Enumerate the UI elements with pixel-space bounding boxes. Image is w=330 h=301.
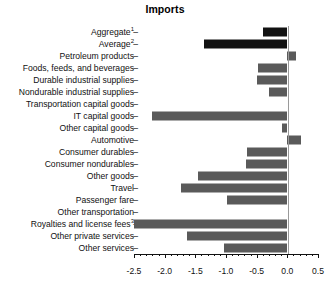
bar-row: Other capital goods– <box>0 122 330 134</box>
category-tick-dash: – <box>133 99 138 109</box>
x-axis-minor-tick <box>281 254 282 256</box>
bar-row: Consumer durables– <box>0 146 330 158</box>
category-tick-dash: – <box>133 27 138 37</box>
x-axis-major-tick <box>134 254 135 258</box>
x-axis-minor-tick <box>177 254 178 256</box>
x-axis-minor-tick <box>251 254 252 256</box>
category-tick-dash: – <box>133 51 138 61</box>
x-axis-minor-tick <box>208 254 209 256</box>
x-axis-tick-label: -2.0 <box>157 266 172 276</box>
category-tick-dash: – <box>133 183 138 193</box>
bar <box>152 112 287 121</box>
bar <box>134 220 287 229</box>
x-axis-minor-tick <box>189 254 190 256</box>
bar-row: Consumer nondurables– <box>0 158 330 170</box>
category-label: Aggregate1 <box>91 28 134 37</box>
x-axis-tick-label: -2.5 <box>127 266 142 276</box>
bar-row: Royalties and license fees3– <box>0 218 330 230</box>
bar <box>247 148 287 157</box>
category-label: Transportation capital goods <box>26 100 134 109</box>
bar <box>198 172 288 181</box>
x-axis-major-tick <box>318 254 319 258</box>
zero-axis-line <box>288 26 289 254</box>
x-axis-minor-tick <box>146 254 147 256</box>
category-tick-dash: – <box>133 171 138 181</box>
bar-row: Other goods– <box>0 170 330 182</box>
category-tick-dash: – <box>133 231 138 241</box>
x-axis <box>0 254 330 264</box>
category-tick-dash: – <box>133 75 138 85</box>
category-tick-dash: – <box>133 159 138 169</box>
category-label: Passenger fare <box>76 196 134 205</box>
bar <box>263 28 288 37</box>
x-axis-minor-tick <box>201 254 202 256</box>
bar <box>246 160 287 169</box>
category-tick-dash: – <box>133 87 138 97</box>
plot-area: Aggregate1–Average2–Petroleum products–F… <box>0 26 330 264</box>
x-axis-major-tick <box>195 254 196 258</box>
category-label: Royalties and license fees3 <box>31 220 134 229</box>
bar-row: Aggregate1– <box>0 26 330 38</box>
x-axis-major-tick <box>165 254 166 258</box>
category-label: Consumer durables <box>59 148 134 157</box>
x-axis-minor-tick <box>159 254 160 256</box>
bar <box>269 88 287 97</box>
category-label: Automotive <box>91 136 134 145</box>
x-axis-minor-tick <box>244 254 245 256</box>
bar-row: Average2– <box>0 38 330 50</box>
bar <box>282 124 288 133</box>
x-axis-minor-tick <box>263 254 264 256</box>
category-tick-dash: – <box>133 195 138 205</box>
category-tick-dash: – <box>133 39 138 49</box>
category-label: Other capital goods <box>59 124 134 133</box>
category-label: Other goods <box>87 172 134 181</box>
bar <box>227 196 287 205</box>
bar-row: Automotive– <box>0 134 330 146</box>
category-label: Other services <box>79 244 134 253</box>
x-axis-major-tick <box>226 254 227 258</box>
category-label: Petroleum products <box>59 52 134 61</box>
bar-row: Other private services– <box>0 230 330 242</box>
bar <box>181 184 287 193</box>
bar-row: Petroleum products– <box>0 50 330 62</box>
bar-row: Passenger fare– <box>0 194 330 206</box>
bar-row: Travel– <box>0 182 330 194</box>
x-axis-minor-tick <box>306 254 307 256</box>
x-axis-minor-tick <box>152 254 153 256</box>
category-tick-dash: – <box>133 243 138 253</box>
chart-root: Imports Aggregate1–Average2–Petroleum pr… <box>0 0 330 301</box>
bar-row: Foods, feeds, and beverages– <box>0 62 330 74</box>
x-axis-tick-label: -1.5 <box>188 266 203 276</box>
category-label: Travel <box>110 184 134 193</box>
x-axis-tick-label: -0.5 <box>249 266 264 276</box>
x-axis-major-tick <box>257 254 258 258</box>
category-label: Consumer nondurables <box>45 160 134 169</box>
chart-title: Imports <box>0 3 330 15</box>
x-axis-minor-tick <box>275 254 276 256</box>
x-axis-tick-label: 0.5 <box>312 266 324 276</box>
bar-row: Durable industrial supplies– <box>0 74 330 86</box>
x-axis-minor-tick <box>312 254 313 256</box>
x-axis-minor-tick <box>293 254 294 256</box>
category-label: Average2 <box>99 40 134 49</box>
bar-row: IT capital goods– <box>0 110 330 122</box>
bar-row: Other services– <box>0 242 330 254</box>
bar <box>187 232 287 241</box>
x-axis-tick-label: -1.0 <box>219 266 234 276</box>
category-tick-dash: – <box>133 135 138 145</box>
category-tick-dash: – <box>133 147 138 157</box>
category-label: Foods, feeds, and beverages <box>23 64 134 73</box>
x-axis-minor-tick <box>238 254 239 256</box>
category-label: Nondurable industrial supplies <box>19 88 134 97</box>
category-label: Other transportation <box>58 208 134 217</box>
x-axis-minor-tick <box>171 254 172 256</box>
x-axis-minor-tick <box>300 254 301 256</box>
bar <box>204 40 287 49</box>
category-tick-dash: – <box>133 111 138 121</box>
x-axis-minor-tick <box>269 254 270 256</box>
x-axis-minor-tick <box>183 254 184 256</box>
category-label: IT capital goods <box>73 112 134 121</box>
bar-row: Transportation capital goods– <box>0 98 330 110</box>
category-label: Durable industrial supplies <box>33 76 134 85</box>
bar <box>258 64 287 73</box>
